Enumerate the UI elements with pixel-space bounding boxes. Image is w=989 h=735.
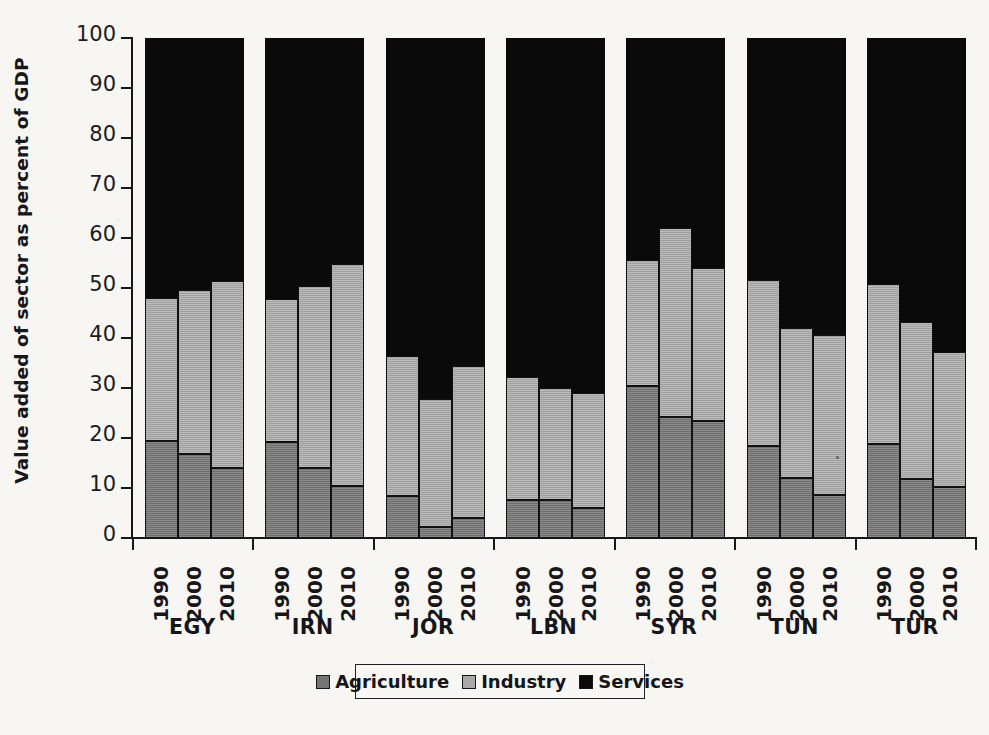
segment-services[interactable] [539, 38, 572, 388]
year-label-text: 2000 [182, 566, 206, 622]
bar-lbn-2010[interactable] [572, 38, 605, 538]
segment-agriculture[interactable] [145, 441, 178, 538]
segment-agriculture[interactable] [572, 508, 605, 538]
year-label-text: 2010 [697, 566, 721, 622]
segment-industry[interactable] [659, 228, 692, 417]
segment-agriculture[interactable] [933, 487, 966, 539]
segment-agriculture[interactable] [211, 468, 244, 539]
bar-tur-1990[interactable] [867, 38, 900, 538]
segment-agriculture[interactable] [178, 454, 211, 539]
segment-industry[interactable] [178, 290, 211, 454]
segment-industry[interactable] [900, 322, 933, 479]
segment-industry[interactable] [145, 298, 178, 441]
segment-industry[interactable] [331, 264, 364, 486]
segment-agriculture[interactable] [386, 496, 419, 539]
bar-syr-2010[interactable] [692, 38, 725, 538]
year-label-text: 1990 [270, 566, 294, 622]
bar-tur-2000[interactable] [900, 38, 933, 538]
bar-lbn-2000[interactable] [539, 38, 572, 538]
bar-jor-2010[interactable] [452, 38, 485, 538]
segment-services[interactable] [780, 38, 813, 328]
segment-services[interactable] [265, 38, 298, 299]
segment-industry[interactable] [780, 328, 813, 478]
segment-industry[interactable] [747, 280, 780, 447]
y-tick-mark [121, 537, 132, 539]
segment-industry[interactable] [692, 268, 725, 421]
segment-services[interactable] [298, 38, 331, 286]
country-label-egy: EGY [132, 615, 252, 639]
segment-services[interactable] [331, 38, 364, 264]
y-tick-label: 30 [56, 374, 116, 395]
segment-agriculture[interactable] [265, 442, 298, 539]
bar-egy-2010[interactable] [211, 38, 244, 538]
segment-industry[interactable] [572, 393, 605, 508]
segment-agriculture[interactable] [747, 446, 780, 538]
segment-industry[interactable] [386, 356, 419, 496]
segment-industry[interactable] [506, 377, 539, 500]
bar-lbn-1990[interactable] [506, 38, 539, 538]
segment-agriculture[interactable] [659, 417, 692, 538]
legend-swatch-agriculture [316, 675, 330, 689]
bar-tun-2010[interactable] [813, 38, 846, 538]
segment-agriculture[interactable] [539, 500, 572, 539]
country-label-tun: TUN [734, 615, 854, 639]
segment-services[interactable] [813, 38, 846, 335]
year-label-text: 1990 [149, 566, 173, 622]
segment-services[interactable] [419, 38, 452, 399]
segment-industry[interactable] [626, 260, 659, 386]
legend-item-agriculture: Agriculture [316, 671, 449, 692]
legend-label-industry: Industry [481, 671, 566, 692]
bar-jor-1990[interactable] [386, 38, 419, 538]
segment-agriculture[interactable] [452, 518, 485, 538]
y-tick-label: 60 [56, 224, 116, 245]
segment-services[interactable] [626, 38, 659, 260]
year-label-text: 1990 [390, 566, 414, 622]
segment-services[interactable] [659, 38, 692, 228]
bar-tur-2010[interactable] [933, 38, 966, 538]
segment-services[interactable] [900, 38, 933, 322]
segment-industry[interactable] [539, 388, 572, 500]
segment-agriculture[interactable] [867, 444, 900, 539]
bar-irn-2010[interactable] [331, 38, 364, 538]
segment-agriculture[interactable] [506, 500, 539, 539]
segment-industry[interactable] [867, 284, 900, 444]
year-label-text: 2000 [303, 566, 327, 622]
bar-tun-2000[interactable] [780, 38, 813, 538]
bar-tun-1990[interactable] [747, 38, 780, 538]
bar-jor-2000[interactable] [419, 38, 452, 538]
segment-industry[interactable] [211, 281, 244, 468]
segment-agriculture[interactable] [813, 495, 846, 539]
segment-industry[interactable] [265, 299, 298, 442]
y-tick-label: 20 [56, 424, 116, 445]
segment-services[interactable] [211, 38, 244, 281]
segment-services[interactable] [452, 38, 485, 366]
segment-services[interactable] [572, 38, 605, 393]
segment-services[interactable] [867, 38, 900, 284]
segment-industry[interactable] [452, 366, 485, 518]
segment-agriculture[interactable] [419, 527, 452, 538]
bar-egy-2000[interactable] [178, 38, 211, 538]
segment-services[interactable] [178, 38, 211, 290]
segment-services[interactable] [692, 38, 725, 268]
segment-agriculture[interactable] [298, 468, 331, 538]
segment-services[interactable] [145, 38, 178, 298]
year-label-text: 2000 [664, 566, 688, 622]
segment-industry[interactable] [419, 399, 452, 528]
segment-industry[interactable] [813, 335, 846, 495]
segment-agriculture[interactable] [900, 479, 933, 539]
segment-services[interactable] [933, 38, 966, 352]
segment-agriculture[interactable] [626, 386, 659, 538]
bar-syr-1990[interactable] [626, 38, 659, 538]
segment-industry[interactable] [933, 352, 966, 487]
segment-agriculture[interactable] [780, 478, 813, 538]
segment-services[interactable] [747, 38, 780, 280]
bar-irn-1990[interactable] [265, 38, 298, 538]
segment-services[interactable] [386, 38, 419, 356]
segment-agriculture[interactable] [692, 421, 725, 538]
bar-egy-1990[interactable] [145, 38, 178, 538]
segment-agriculture[interactable] [331, 486, 364, 539]
bar-irn-2000[interactable] [298, 38, 331, 538]
segment-services[interactable] [506, 38, 539, 377]
bar-syr-2000[interactable] [659, 38, 692, 538]
segment-industry[interactable] [298, 286, 331, 469]
